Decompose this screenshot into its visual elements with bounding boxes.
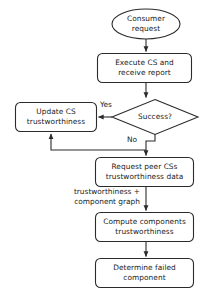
node-shape-compute-components bbox=[96, 213, 194, 242]
flowchart-diagram: Consumer request Execute CS and receive … bbox=[0, 0, 209, 304]
node-shape-consumer-request bbox=[112, 9, 180, 39]
node-shape-request-peer bbox=[96, 158, 194, 187]
edge-label-no: No bbox=[127, 135, 137, 145]
node-shape-success-decision bbox=[112, 100, 198, 135]
edge-label-data-flow-line-1: trustworthiness + bbox=[14, 187, 140, 197]
edge-label-data-flow-line-2: component graph bbox=[14, 197, 140, 207]
flowchart-canvas bbox=[0, 0, 209, 304]
node-shape-determine-failed bbox=[96, 259, 194, 288]
edge-decision-no-to-request bbox=[146, 135, 155, 156]
node-shape-update-cs bbox=[16, 103, 97, 132]
node-shape-execute-cs bbox=[98, 54, 192, 83]
edge-label-yes: Yes bbox=[100, 100, 112, 110]
edge-label-data-flow: trustworthiness + component graph bbox=[14, 187, 140, 206]
